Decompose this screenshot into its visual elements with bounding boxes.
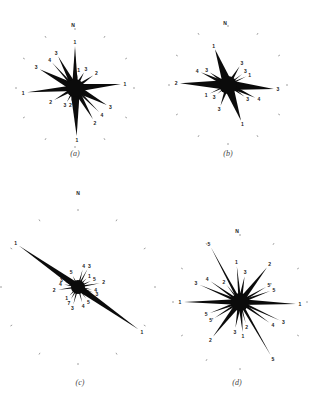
- spike-label: 2: [69, 102, 72, 108]
- spike-label: 2: [223, 279, 226, 285]
- spike-label: 1: [241, 121, 244, 127]
- north-label: N: [223, 20, 227, 26]
- ring-tick: [278, 55, 280, 56]
- center-hub: [231, 293, 249, 311]
- spike-label: 1: [242, 333, 245, 339]
- spike-label: 3: [240, 60, 243, 66]
- spike-label: 2: [102, 279, 105, 285]
- spike-label: 4: [196, 68, 199, 74]
- spike-label: 1: [77, 67, 80, 73]
- spike-label: 3: [109, 104, 112, 110]
- ring-tick: [297, 335, 299, 336]
- spike-label: 2: [268, 261, 271, 267]
- center-hub: [71, 280, 85, 294]
- spike-label: 3: [35, 64, 38, 70]
- ring-tick: [257, 135, 258, 137]
- ring-tick: [278, 114, 280, 115]
- spike-label: 5: [93, 276, 96, 282]
- spike-label: 4: [48, 57, 51, 63]
- ring-tick: [144, 325, 146, 326]
- spike-label: 2: [49, 99, 52, 105]
- rose-diagrams-canvas: N1343123212431231N13313431331243N1143152…: [0, 0, 310, 400]
- spike-label: 4: [100, 112, 103, 118]
- spike-label: 1: [14, 240, 17, 246]
- ring-tick: [45, 36, 46, 38]
- spike-label: 1: [123, 81, 126, 87]
- spike-label: 5: [87, 299, 90, 305]
- spike-label: 2: [245, 324, 248, 330]
- ring-tick: [125, 117, 127, 118]
- spike-label: 5: [272, 287, 275, 293]
- rose-diagram-b: N13313431331243: [168, 20, 288, 145]
- spike-label: 1: [179, 299, 182, 305]
- spike-label: 3: [95, 291, 98, 297]
- spike-label: 1: [22, 90, 25, 96]
- spike-label: 1: [74, 39, 77, 45]
- spike-label: 1: [141, 329, 144, 335]
- center-hub: [219, 76, 237, 94]
- ring-tick: [10, 248, 12, 249]
- rose-diagram-d: N51325'5134521325'51342: [172, 228, 308, 370]
- spike-label: 1: [235, 259, 238, 265]
- spike-label: 1: [248, 72, 251, 78]
- rose-diagram-c: N114315243543712435: [0, 190, 156, 365]
- rose-spike: [19, 246, 80, 290]
- ring-tick: [10, 325, 12, 326]
- ring-tick: [104, 138, 105, 140]
- spike-label: 5: [272, 356, 275, 362]
- caption-b: (b): [223, 149, 232, 158]
- ring-tick: [297, 268, 299, 269]
- spike-label: 2: [94, 120, 97, 126]
- north-label: N: [235, 228, 239, 234]
- ring-tick: [181, 268, 183, 269]
- spike-label: 3: [233, 329, 236, 335]
- ring-tick: [23, 58, 25, 59]
- ring-tick: [198, 33, 199, 35]
- rose-spike: [76, 284, 139, 329]
- ring-tick: [45, 138, 46, 140]
- spike-label: 3: [64, 102, 67, 108]
- ring-tick: [198, 135, 199, 137]
- spike-label: 3: [205, 67, 208, 73]
- spike-label: 3: [55, 50, 58, 56]
- spike-label: 4: [82, 263, 85, 269]
- ring-tick: [125, 58, 127, 59]
- ring-tick: [273, 243, 274, 245]
- spike-label: 5: [70, 269, 73, 275]
- spike-label: 2: [95, 70, 98, 76]
- spike-label: 4: [206, 276, 209, 282]
- spike-label: 3: [213, 94, 216, 100]
- ring-tick: [206, 359, 207, 361]
- rose-diagram-a: N1343123212431231: [15, 22, 135, 148]
- spike-label: 5: [208, 241, 211, 247]
- ring-tick: [257, 33, 258, 35]
- spike-label: 1: [75, 137, 78, 143]
- spike-label: 2: [209, 337, 212, 343]
- ring-tick: [181, 335, 183, 336]
- spike-label: 3: [88, 263, 91, 269]
- spike-label: 4: [257, 96, 260, 102]
- spike-label: 2: [175, 80, 178, 86]
- spike-label: 1: [88, 273, 91, 279]
- spike-label: 3: [85, 66, 88, 72]
- ring-tick: [116, 219, 117, 221]
- rose-diagram-figure: N1343123212431231N13313431331243N1143152…: [0, 0, 310, 400]
- ring-tick: [23, 117, 25, 118]
- ring-tick: [104, 36, 105, 38]
- center-hub: [66, 79, 84, 97]
- ring-tick: [176, 114, 178, 115]
- spike-label: 2: [53, 287, 56, 293]
- spike-label: 5': [267, 282, 271, 288]
- spike-label: 3: [246, 96, 249, 102]
- spike-label: 3: [71, 305, 74, 311]
- spike-label: 1: [299, 301, 302, 307]
- caption-c: (c): [76, 378, 85, 387]
- spike-label: 1: [205, 92, 208, 98]
- ring-tick: [39, 353, 40, 355]
- north-label: N: [76, 190, 80, 196]
- spike-label: 3: [244, 269, 247, 275]
- spike-label: 4: [271, 322, 274, 328]
- spike-label: 5: [205, 311, 208, 317]
- caption-a: (a): [70, 149, 79, 158]
- spike-label: 1: [212, 43, 215, 49]
